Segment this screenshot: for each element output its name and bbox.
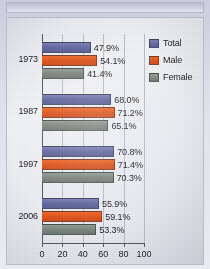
bar-female-1973 [42,68,84,79]
bar-male-1997 [42,159,115,170]
x-axis-tickmark [83,244,84,247]
x-axis-tick-label: 0 [32,249,52,259]
x-axis-tick-label: 100 [134,249,154,259]
category-label-2006: 2006 [8,211,38,221]
legend-item-total: Total [149,36,201,50]
bar-female-2006 [42,224,96,235]
bar-value-label: 70.3% [117,173,142,183]
bar-value-label: 55.9% [102,199,127,209]
legend-item-female: Female [149,70,201,84]
legend: Total Male Female [149,36,201,87]
category-label-1973: 1973 [8,54,38,64]
bar-value-label: 70.8% [117,147,142,157]
bar-total-1997 [42,146,114,157]
plot: 47.9%54.1%41.4%68.0%71.2%65.1%70.8%71.4%… [7,18,203,264]
bar-value-label: 41.4% [87,69,112,79]
legend-item-male: Male [149,53,201,67]
bar-value-label: 54.1% [100,56,125,66]
bar-female-1987 [42,120,108,131]
header-strip [6,2,204,13]
legend-label-female: Female [163,72,192,82]
x-axis-tickmark [103,244,104,247]
legend-swatch-total-icon [149,39,159,48]
category-label-1987: 1987 [8,106,38,116]
bar-total-1973 [42,42,91,53]
legend-label-total: Total [163,38,182,48]
bar-value-label: 71.4% [118,160,143,170]
legend-swatch-female-icon [149,73,159,82]
bar-male-1987 [42,107,115,118]
x-axis-tick-label: 40 [73,249,93,259]
bar-value-label: 47.9% [94,43,119,53]
bar-male-2006 [42,211,102,222]
x-axis-tickmark [124,244,125,247]
gridline [144,34,145,243]
legend-label-male: Male [163,55,182,65]
bar-male-1973 [42,55,97,66]
x-axis-tick-label: 20 [52,249,72,259]
chart-panel: 47.9%54.1%41.4%68.0%71.2%65.1%70.8%71.4%… [6,17,204,265]
x-axis-tick-label: 80 [114,249,134,259]
x-axis-tick-label: 60 [93,249,113,259]
chart-page: 47.9%54.1%41.4%68.0%71.2%65.1%70.8%71.4%… [0,0,210,269]
bar-value-label: 65.1% [111,121,136,131]
bar-total-1987 [42,94,111,105]
bar-value-label: 53.3% [99,225,124,235]
bar-value-label: 71.2% [118,108,143,118]
category-label-1997: 1997 [8,159,38,169]
x-axis-tickmark [144,244,145,247]
x-axis-line [42,243,145,244]
bar-total-2006 [42,198,99,209]
bar-female-1997 [42,172,114,183]
x-axis-tickmark [42,244,43,247]
bar-value-label: 68.0% [114,95,139,105]
bar-value-label: 59.1% [105,212,130,222]
legend-swatch-male-icon [149,56,159,65]
x-axis-tickmark [62,244,63,247]
